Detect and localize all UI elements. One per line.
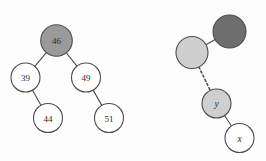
edge-n46-to-n49 xyxy=(66,53,77,66)
edge-n39-to-n44 xyxy=(33,90,41,105)
tree-node-rdark[interactable] xyxy=(213,15,246,48)
edge-rlight-to-ny xyxy=(199,67,210,91)
node-circle-49[interactable] xyxy=(72,63,101,92)
edge-rlight-to-rdark xyxy=(206,40,215,45)
edge-n49-to-n51 xyxy=(93,90,102,105)
nodes-layer: 4639494451yx xyxy=(11,15,254,153)
node-circle-44[interactable] xyxy=(34,104,63,133)
tree-node-49[interactable]: 49 xyxy=(72,63,101,92)
tree-node-44[interactable]: 44 xyxy=(34,104,63,133)
node-circle-rlight[interactable] xyxy=(176,37,208,69)
tree-diagram-canvas: 4639494451yx xyxy=(0,0,266,161)
node-circle-39[interactable] xyxy=(11,63,40,92)
figure-root: 4639494451yx xyxy=(0,0,266,161)
node-circle-x[interactable] xyxy=(225,124,254,153)
node-circle-51[interactable] xyxy=(95,104,124,133)
tree-node-51[interactable]: 51 xyxy=(95,104,124,133)
tree-node-rlight[interactable] xyxy=(176,37,208,69)
node-circle-y[interactable] xyxy=(202,89,231,118)
tree-node-46[interactable]: 46 xyxy=(41,25,73,57)
edge-n46-to-n39 xyxy=(35,53,47,67)
node-circle-46[interactable] xyxy=(41,25,73,57)
tree-node-39[interactable]: 39 xyxy=(11,63,40,92)
tree-node-y[interactable]: y xyxy=(202,89,231,118)
node-circle-rdark[interactable] xyxy=(213,15,246,48)
tree-node-x[interactable]: x xyxy=(225,124,254,153)
edge-ny-to-nx xyxy=(225,116,232,126)
